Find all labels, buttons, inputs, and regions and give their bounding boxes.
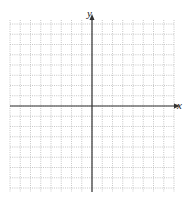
x-axis-label: x (177, 100, 182, 111)
coordinate-plane (0, 0, 191, 204)
y-axis-label: y (87, 8, 92, 19)
